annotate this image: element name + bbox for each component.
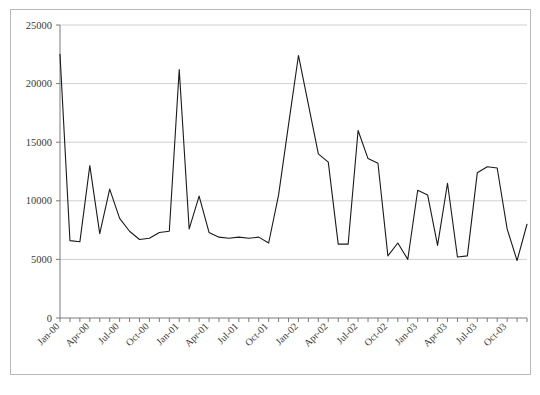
gridline-group: [60, 25, 527, 259]
x-tick-label: Jul-03: [453, 321, 478, 346]
x-tick-label: Jul-00: [96, 321, 121, 346]
y-tick-label: 15000: [26, 137, 52, 148]
x-tick-label: Jan-02: [273, 321, 300, 348]
x-tick-label: Oct-01: [243, 321, 270, 348]
x-tick-group: [60, 318, 527, 322]
x-tick-label: Jul-02: [334, 321, 359, 346]
x-tick-label: Apr-00: [63, 321, 91, 349]
y-tick-group: [56, 25, 60, 318]
y-tick-label: 10000: [26, 195, 52, 206]
y-tick-label: 5000: [31, 254, 52, 265]
x-tick-label: Jan-03: [392, 321, 419, 348]
x-tick-label: Oct-00: [123, 321, 150, 348]
x-tick-label: Oct-03: [481, 321, 508, 348]
x-tick-label: Jul-01: [215, 321, 240, 346]
x-tick-label: Apr-03: [421, 321, 449, 349]
x-tick-label: Jan-01: [154, 321, 181, 348]
chart-container: 0500010000150002000025000 Jan-00Apr-00Ju…: [0, 0, 540, 395]
x-tick-label: Apr-02: [302, 321, 330, 349]
data-series-line: [60, 54, 527, 260]
y-axis-labels: 0500010000150002000025000: [26, 20, 52, 324]
line-chart-plot: 0500010000150002000025000 Jan-00Apr-00Ju…: [0, 0, 540, 395]
x-tick-label: Apr-01: [182, 321, 210, 349]
x-tick-label: Jan-00: [35, 321, 62, 348]
x-tick-label: Oct-02: [362, 321, 389, 348]
y-tick-label: 25000: [26, 20, 52, 31]
y-tick-label: 20000: [26, 78, 52, 89]
x-axis-labels: Jan-00Apr-00Jul-00Oct-00Jan-01Apr-01Jul-…: [35, 321, 509, 349]
